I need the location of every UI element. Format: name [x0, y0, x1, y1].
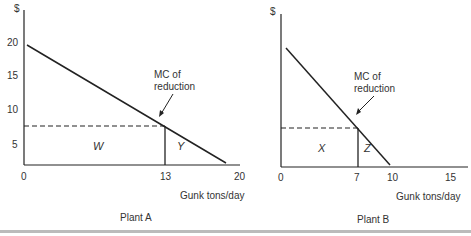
- plant-a-title: Plant A: [120, 212, 152, 223]
- plant-a-ytick: 10: [7, 104, 18, 115]
- plant-a-x-label: Gunk tons/day: [180, 190, 244, 201]
- plant-b-xtick: 15: [445, 172, 456, 183]
- plant-b-mc-line: [286, 48, 390, 165]
- plant-a-curve-label: MC of: [154, 69, 181, 80]
- plant-a-ytick: 20: [7, 37, 18, 48]
- plant-a-mc-line: [27, 45, 226, 163]
- plant-a-xtick: 13: [160, 171, 171, 182]
- plant-b-title: Plant B: [357, 214, 389, 225]
- plant-a-arrow: [161, 94, 173, 114]
- plant-a-region-w: W: [93, 141, 103, 152]
- plant-a-curve-label: reduction: [154, 81, 195, 92]
- plant-a-region-y: Y: [177, 141, 184, 152]
- plant-a-chart: [24, 10, 240, 165]
- plant-b-xtick: 0: [278, 172, 284, 183]
- plant-a-ytick: 15: [7, 70, 18, 81]
- plant-a-xtick: 0: [21, 171, 27, 182]
- plant-b-curve-label: reduction: [354, 83, 395, 94]
- plant-b-region-z: Z: [364, 143, 371, 154]
- plant-b-region-x: X: [318, 143, 325, 154]
- plant-b-arrow: [358, 96, 374, 112]
- plant-b-y-label: $: [270, 6, 276, 17]
- plant-a-ytick: 5: [12, 139, 18, 150]
- plant-b-xtick: 7: [354, 172, 360, 183]
- plant-b-xtick: 10: [387, 172, 398, 183]
- plant-b-x-label: Gunk tons/day: [396, 191, 460, 202]
- bottom-divider: [0, 230, 471, 233]
- plant-a-y-label: $: [14, 3, 20, 14]
- plant-a-xtick: 20: [234, 171, 245, 182]
- plant-b-curve-label: MC of: [354, 71, 381, 82]
